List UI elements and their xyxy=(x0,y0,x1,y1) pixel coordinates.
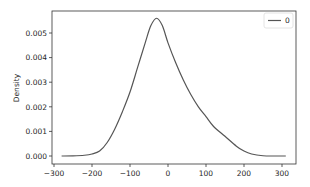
x-axis-ticks: −300−200−1000100200300 xyxy=(44,164,290,178)
y-axis-label: Density xyxy=(12,73,21,102)
density-chart: 0.0000.0010.0020.0030.0040.005 −300−200−… xyxy=(0,0,310,187)
y-tick-label: 0.003 xyxy=(26,78,48,87)
x-tick-label: −200 xyxy=(82,169,103,178)
y-tick-label: 0.001 xyxy=(26,127,48,136)
legend: 0 xyxy=(264,13,293,28)
legend-label: 0 xyxy=(285,16,290,25)
x-tick-label: 0 xyxy=(166,169,171,178)
x-tick-label: 200 xyxy=(237,169,252,178)
x-tick-label: 100 xyxy=(199,169,214,178)
y-tick-label: 0.000 xyxy=(26,152,48,161)
plot-area xyxy=(52,11,296,164)
y-tick-label: 0.004 xyxy=(26,53,48,62)
x-tick-label: 300 xyxy=(275,169,290,178)
x-tick-label: −100 xyxy=(120,169,141,178)
y-tick-label: 0.002 xyxy=(26,103,48,112)
y-tick-label: 0.005 xyxy=(26,29,48,38)
x-tick-label: −300 xyxy=(44,169,65,178)
y-axis-ticks: 0.0000.0010.0020.0030.0040.005 xyxy=(26,29,52,161)
